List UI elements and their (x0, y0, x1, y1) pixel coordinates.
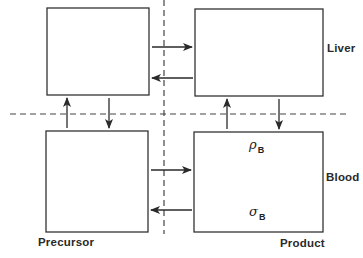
sigma-glyph: σ (249, 204, 258, 219)
rho-glyph: ρ (249, 137, 257, 152)
compartment-precursor-blood (46, 131, 148, 232)
row-label-blood: Blood (326, 171, 360, 183)
diagram-canvas (0, 0, 363, 258)
compartment-diagram: Liver Blood Precursor Product ρB σB (0, 0, 363, 258)
rho-subscript: B (258, 145, 265, 155)
symbol-sigma-b: σB (249, 204, 264, 219)
symbol-rho-b: ρB (249, 137, 263, 152)
column-label-product: Product (280, 237, 325, 249)
compartment-precursor-liver (47, 8, 149, 95)
column-label-precursor: Precursor (38, 236, 94, 248)
row-label-liver: Liver (327, 42, 356, 54)
compartment-product-liver (195, 9, 323, 96)
sigma-subscript: B (259, 212, 266, 222)
